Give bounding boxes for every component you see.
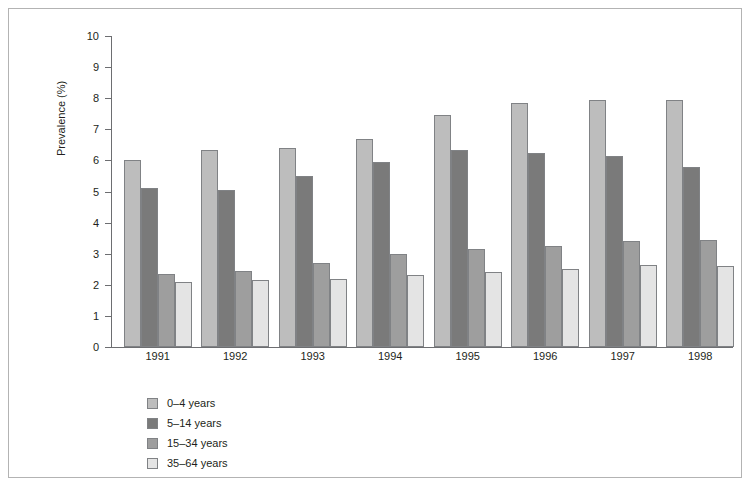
bar-group: [279, 36, 347, 347]
bar-group: [666, 36, 734, 347]
x-axis-label: 1995: [428, 350, 508, 362]
bar-group: [356, 36, 424, 347]
bar[interactable]: [606, 156, 623, 347]
bar[interactable]: [468, 249, 485, 347]
bar[interactable]: [511, 103, 528, 347]
bar[interactable]: [390, 254, 407, 347]
y-tick-label: 6: [75, 152, 99, 168]
bar[interactable]: [717, 266, 734, 347]
y-tick-mark: [105, 192, 111, 193]
y-tick-label: 2: [75, 277, 99, 293]
bar[interactable]: [485, 272, 502, 347]
bar[interactable]: [218, 190, 235, 347]
bar[interactable]: [356, 139, 373, 347]
legend-item[interactable]: 5–14 years: [147, 413, 228, 433]
bar[interactable]: [589, 100, 606, 347]
x-axis-label: 1998: [660, 350, 740, 362]
bar[interactable]: [623, 241, 640, 347]
bar[interactable]: [434, 115, 451, 347]
bar[interactable]: [700, 240, 717, 347]
bar[interactable]: [407, 275, 424, 347]
legend-swatch: [147, 418, 158, 429]
legend-item[interactable]: 15–34 years: [147, 433, 228, 453]
x-axis-label: 1997: [583, 350, 663, 362]
y-tick-label: 10: [75, 28, 99, 44]
y-tick-label: 0: [75, 339, 99, 355]
bar[interactable]: [666, 100, 683, 347]
bar-group: [124, 36, 192, 347]
figure-frame: Prevalence (%) 109876543210 199119921993…: [8, 8, 742, 478]
y-tick-label: 5: [75, 184, 99, 200]
bar-group: [201, 36, 269, 347]
legend-label: 0–4 years: [167, 397, 215, 409]
y-tick-label: 1: [75, 308, 99, 324]
bar[interactable]: [296, 176, 313, 347]
legend-label: 5–14 years: [167, 417, 221, 429]
y-tick-label: 3: [75, 246, 99, 262]
y-tick-mark: [105, 285, 111, 286]
bar[interactable]: [235, 271, 252, 347]
y-tick-label: 8: [75, 90, 99, 106]
legend: 0–4 years5–14 years15–34 years35–64 year…: [147, 393, 228, 473]
x-axis-line: [111, 347, 733, 348]
y-tick-mark: [105, 223, 111, 224]
legend-item[interactable]: 35–64 years: [147, 453, 228, 473]
bar-group: [434, 36, 502, 347]
bar[interactable]: [373, 162, 390, 347]
legend-swatch: [147, 438, 158, 449]
bar[interactable]: [141, 188, 158, 347]
x-axis-label: 1996: [505, 350, 585, 362]
legend-label: 35–64 years: [167, 457, 228, 469]
legend-item[interactable]: 0–4 years: [147, 393, 228, 413]
y-tick-mark: [105, 67, 111, 68]
y-tick-label: 9: [75, 59, 99, 75]
bar[interactable]: [158, 274, 175, 347]
bar[interactable]: [201, 150, 218, 347]
legend-swatch: [147, 458, 158, 469]
legend-swatch: [147, 398, 158, 409]
y-tick-label: 7: [75, 121, 99, 137]
y-axis-title: Prevalence (%): [55, 81, 67, 156]
bar[interactable]: [175, 282, 192, 347]
y-tick-mark: [105, 129, 111, 130]
bar[interactable]: [562, 269, 579, 347]
legend-label: 15–34 years: [167, 437, 228, 449]
bar[interactable]: [252, 280, 269, 347]
x-axis-label: 1993: [273, 350, 353, 362]
bar[interactable]: [528, 153, 545, 347]
bar[interactable]: [640, 265, 657, 347]
bar[interactable]: [279, 148, 296, 347]
y-tick-label: 4: [75, 215, 99, 231]
y-tick-mark: [105, 36, 111, 37]
plot-area: Prevalence (%) 109876543210 199119921993…: [111, 36, 731, 347]
y-tick-mark: [105, 98, 111, 99]
bar[interactable]: [313, 263, 330, 347]
y-tick-mark: [105, 160, 111, 161]
x-axis-label: 1994: [350, 350, 430, 362]
y-tick-mark: [105, 347, 111, 348]
x-axis-label: 1992: [195, 350, 275, 362]
bar[interactable]: [545, 246, 562, 347]
bar[interactable]: [330, 279, 347, 347]
bar[interactable]: [683, 167, 700, 347]
bar[interactable]: [451, 150, 468, 347]
x-axis-label: 1991: [118, 350, 198, 362]
bar[interactable]: [124, 160, 141, 347]
y-tick-mark: [105, 316, 111, 317]
y-tick-mark: [105, 254, 111, 255]
bar-group: [511, 36, 579, 347]
bar-group: [589, 36, 657, 347]
